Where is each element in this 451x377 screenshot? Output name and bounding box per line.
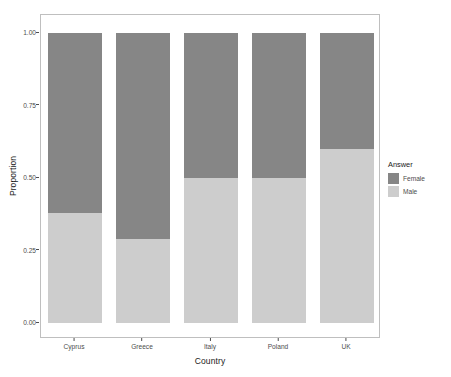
bar-segment[interactable]	[184, 178, 238, 323]
legend: Answer FemaleMale	[388, 160, 448, 199]
x-axis-title: Country	[40, 356, 380, 366]
y-tick-label: 0.00	[17, 319, 36, 326]
bar-segment[interactable]	[116, 239, 170, 323]
legend-title: Answer	[388, 160, 448, 169]
legend-item-label: Female	[403, 175, 425, 182]
bar-segment[interactable]	[48, 33, 102, 213]
y-tick-mark	[36, 104, 39, 105]
y-tick-mark	[36, 249, 39, 250]
bar-segment[interactable]	[48, 213, 102, 323]
y-tick-mark	[36, 322, 39, 323]
legend-key-swatch	[388, 173, 399, 184]
x-tick-mark	[277, 338, 278, 341]
legend-item[interactable]: Female	[388, 173, 448, 184]
y-tick-mark	[36, 177, 39, 178]
x-tick-mark	[73, 338, 74, 341]
y-tick-mark	[36, 32, 39, 33]
bar-group[interactable]	[320, 15, 374, 337]
legend-key-swatch	[388, 186, 399, 197]
x-tick: UK	[341, 338, 350, 350]
bar-segment[interactable]	[252, 33, 306, 178]
bar-segment[interactable]	[252, 178, 306, 323]
bar-group[interactable]	[116, 15, 170, 337]
y-tick: 0.25	[17, 250, 36, 251]
x-axis-ticks: CyprusGreeceItalyPolandUK	[40, 338, 380, 354]
y-axis-ticks: 1.000.750.500.250.00	[17, 14, 36, 338]
legend-item-label: Male	[403, 188, 417, 195]
bar-segment[interactable]	[184, 33, 238, 178]
x-tick: Cyprus	[64, 338, 85, 350]
legend-item[interactable]: Male	[388, 186, 448, 197]
bar-group[interactable]	[48, 15, 102, 337]
y-tick-label: 0.75	[17, 101, 36, 108]
y-tick-label: 0.50	[17, 174, 36, 181]
x-tick-label: Greece	[131, 343, 153, 350]
y-tick-label: 0.25	[17, 246, 36, 253]
bar-group[interactable]	[184, 15, 238, 337]
x-tick-label: Italy	[204, 343, 216, 350]
bar-segment[interactable]	[320, 149, 374, 323]
y-tick: 0.50	[17, 177, 36, 178]
bar-segment[interactable]	[116, 33, 170, 239]
x-tick-mark	[142, 338, 143, 341]
x-tick-mark	[345, 338, 346, 341]
x-tick-label: UK	[341, 343, 350, 350]
bar-group[interactable]	[252, 15, 306, 337]
x-tick: Italy	[204, 338, 216, 350]
stacked-bar-chart: Proportion 1.000.750.500.250.00 CyprusGr…	[0, 0, 451, 377]
legend-items: FemaleMale	[388, 173, 448, 197]
x-tick: Greece	[131, 338, 153, 350]
y-tick: 0.00	[17, 322, 36, 323]
x-tick-mark	[210, 338, 211, 341]
x-tick-label: Poland	[268, 343, 289, 350]
x-tick-label: Cyprus	[64, 343, 85, 350]
y-tick: 0.75	[17, 105, 36, 106]
plot-panel	[40, 14, 380, 338]
x-tick: Poland	[268, 338, 289, 350]
y-tick: 1.00	[17, 32, 36, 33]
bar-segment[interactable]	[320, 33, 374, 149]
y-tick-label: 1.00	[17, 29, 36, 36]
bars-layer	[41, 15, 379, 337]
